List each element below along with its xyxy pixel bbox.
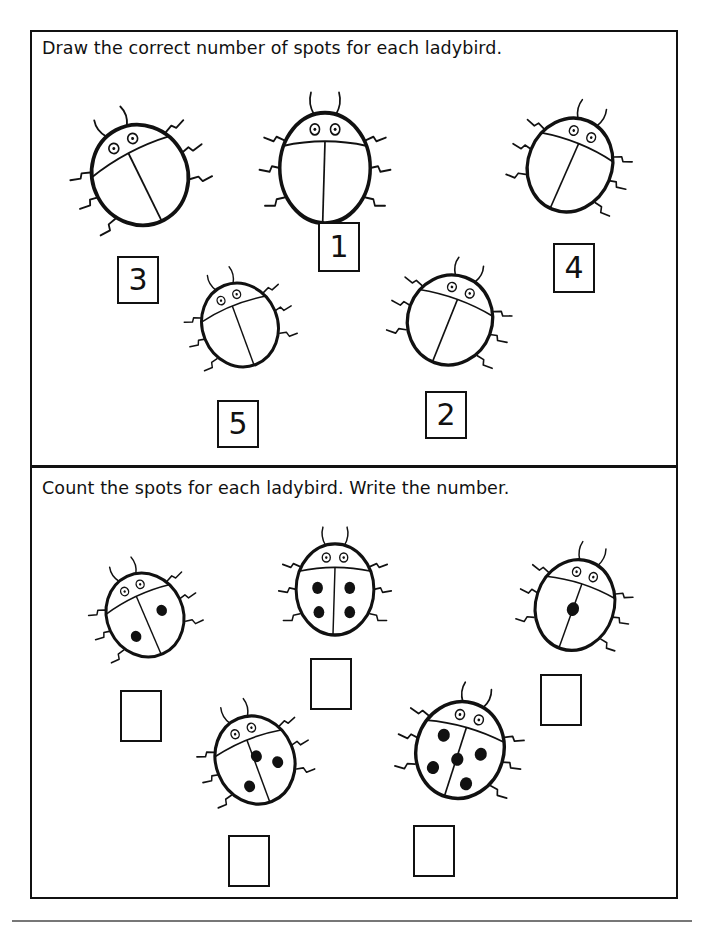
answer-box-4[interactable] xyxy=(228,835,270,887)
ladybird-1 xyxy=(40,80,240,270)
page-footer-line xyxy=(12,920,692,922)
answer-box-1[interactable] xyxy=(120,690,162,742)
ladybird-5 xyxy=(360,240,540,400)
ladybird-4 xyxy=(150,250,330,400)
ladybird-2-spots xyxy=(55,535,235,695)
ladybird-5-spots xyxy=(370,665,550,835)
number-label-4: 5 xyxy=(217,400,259,448)
ladybird-3-spots xyxy=(165,680,345,840)
number-label-5: 2 xyxy=(425,391,467,439)
ladybird-1-spot xyxy=(485,525,665,685)
section-divider xyxy=(30,465,678,468)
answer-box-5[interactable] xyxy=(413,825,455,877)
ladybird-2 xyxy=(235,78,415,238)
number-label-3: 4 xyxy=(553,243,595,293)
ladybird-3 xyxy=(470,90,670,240)
instruction-count-spots: Count the spots for each ladybird. Write… xyxy=(42,478,509,498)
ladybird-4-spots xyxy=(255,510,415,660)
instruction-draw-spots: Draw the correct number of spots for eac… xyxy=(42,38,502,58)
